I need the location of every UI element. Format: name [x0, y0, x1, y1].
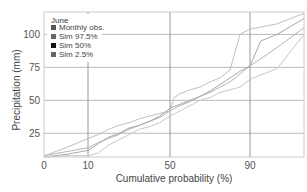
- legend-swatch: [51, 34, 56, 39]
- legend-label: Monthly obs.: [59, 23, 104, 32]
- legend: June Monthly obs.Sim 97.5%Sim 50%Sim 2.5…: [47, 14, 104, 62]
- x-tick-label: 90: [244, 160, 256, 171]
- y-tick-label: 75: [29, 62, 41, 73]
- y-tick-label: 100: [23, 29, 40, 40]
- legend-swatch: [51, 25, 56, 30]
- x-axis-label: Cumulative probability (%): [116, 173, 233, 184]
- y-tick-label: 50: [29, 95, 41, 106]
- y-axis-label: Precipitation (mm): [11, 49, 22, 130]
- x-tick-labels: 0105090: [41, 160, 256, 171]
- x-tick-label: 0: [41, 160, 47, 171]
- legend-label: Sim 50%: [59, 41, 91, 50]
- y-tick-labels: 255075100: [23, 29, 40, 139]
- legend-label: Sim 97.5%: [59, 32, 98, 41]
- x-tick-label: 10: [82, 160, 94, 171]
- x-tick-label: 50: [164, 160, 176, 171]
- legend-label: Sim 2.5%: [59, 50, 93, 59]
- y-tick-label: 25: [29, 128, 41, 139]
- legend-swatch: [51, 43, 56, 48]
- chart: 255075100 0105090 Cumulative probability…: [0, 0, 307, 192]
- legend-swatch: [51, 52, 56, 57]
